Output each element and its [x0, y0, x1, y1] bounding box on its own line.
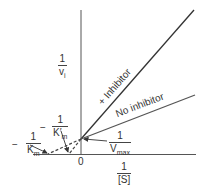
vmax-denominator: Vmax — [109, 144, 131, 156]
plus-inhibitor-line — [81, 10, 194, 139]
km-denominator: Km — [26, 145, 41, 157]
y-label-numerator: 1 — [59, 54, 67, 64]
x-axis-label: 1 [S] — [117, 162, 131, 185]
y-label-denominator: vi — [58, 67, 67, 79]
vmax-numerator: 1 — [116, 131, 124, 141]
origin-label: 0 — [78, 157, 84, 167]
km-prime-denominator: K′m — [52, 128, 68, 140]
x-label-denominator: [S] — [117, 175, 131, 185]
km-numerator: 1 — [29, 132, 37, 142]
y-axis-label: 1 vi — [58, 54, 67, 79]
vmax-arrow — [84, 139, 107, 141]
km-prime-label: 1 K′m — [52, 115, 68, 140]
km-sign: − — [12, 139, 18, 150]
km-prime-sign: − — [40, 122, 46, 133]
km-prime-numerator: 1 — [56, 115, 64, 125]
km-label: 1 Km — [26, 132, 41, 157]
x-label-numerator: 1 — [120, 162, 128, 172]
vmax-label: 1 Vmax — [109, 131, 131, 156]
